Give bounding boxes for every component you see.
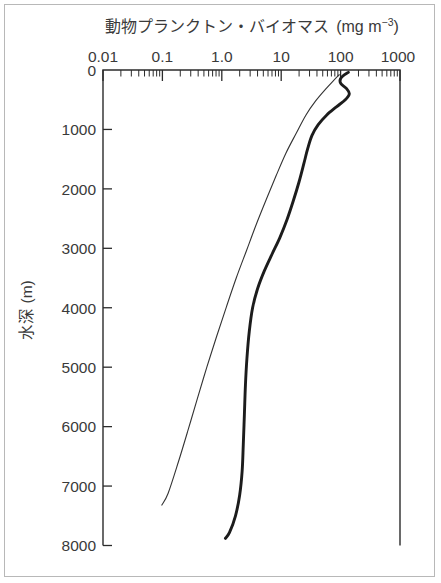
y-tick-label-5: 5000 [62,359,97,376]
svg-text:動物プランクトン・バイオマス(mg m−3): 動物プランクトン・バイオマス(mg m−3) [105,16,399,35]
x-tick-label-4: 100 [328,48,354,65]
y-axis-label: 水深 (m) [18,280,35,340]
y-tick-label-6: 6000 [62,418,97,435]
zooplankton-biomass-depth-profile-chart: 動物プランクトン・バイオマス(mg m−3) 0.01 0.1 1.0 10 1… [0,0,441,583]
x-tick-label-1: 0.1 [152,48,174,65]
y-tick-label-2: 2000 [62,181,97,198]
data-curves [162,72,349,538]
chart-title-main: 動物プランクトン・バイオマス [105,18,329,35]
y-tick-label-8: 8000 [62,537,97,554]
chart-title: 動物プランクトン・バイオマス(mg m−3) [105,16,399,35]
y-tick-label-7: 7000 [62,478,97,495]
y-tick-label-4: 4000 [62,300,97,317]
x-axis-tick-labels: 0.01 0.1 1.0 10 100 1000 [88,48,416,65]
chart-title-unit-close: ) [393,18,398,35]
series-thick-profile-line [225,72,349,538]
y-axis-ticks [103,129,112,545]
chart-title-unit-open: (mg m [336,18,381,35]
y-tick-label-0: 0 [87,62,96,79]
figure-page: 動物プランクトン・バイオマス(mg m−3) 0.01 0.1 1.0 10 1… [0,0,441,583]
x-tick-label-5: 1000 [381,48,416,65]
y-tick-label-3: 3000 [62,240,97,257]
chart-title-unit-exponent: −3 [382,16,394,28]
x-axis-ticks [103,70,400,81]
y-axis-label-text: 水深 (m) [18,280,35,340]
x-tick-label-2: 1.0 [211,48,233,65]
series-thin-profile-line [162,75,339,505]
y-tick-label-1: 1000 [62,121,97,138]
x-tick-label-3: 10 [273,48,291,65]
y-axis-tick-labels: 0 1000 2000 3000 4000 5000 6000 7000 800… [62,62,97,554]
